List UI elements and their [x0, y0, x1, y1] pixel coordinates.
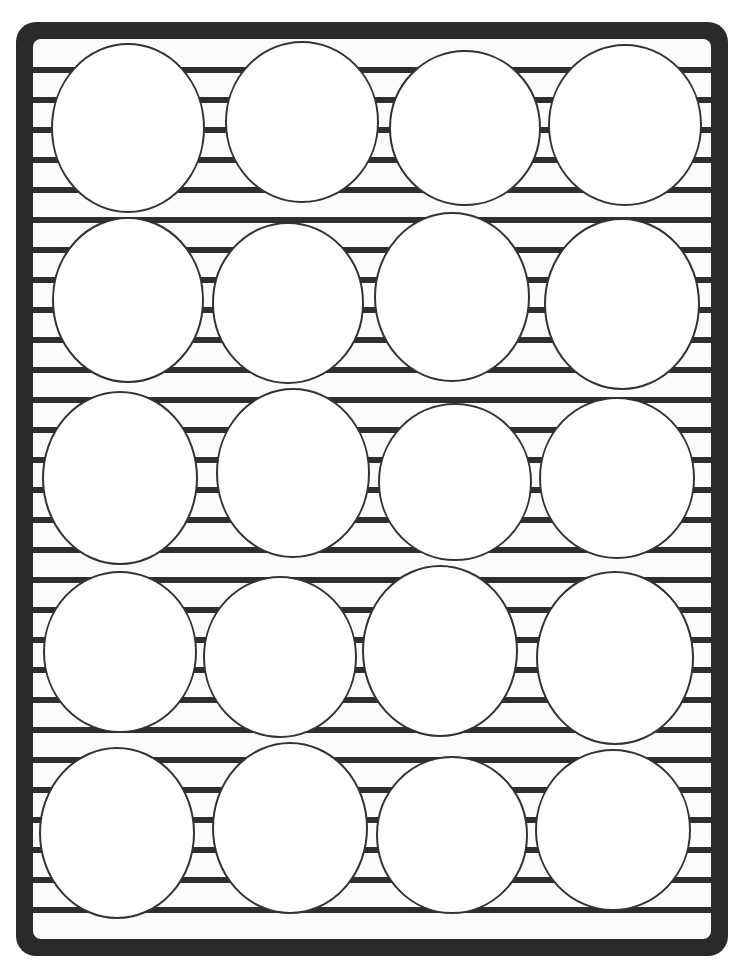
circle-shape	[363, 566, 517, 736]
circle-shape	[213, 743, 367, 913]
circle-shape	[537, 572, 693, 744]
circle-shape	[540, 398, 694, 558]
circle-shape	[217, 389, 369, 557]
circle-shape	[44, 572, 196, 732]
coloring-page-canvas	[0, 0, 740, 973]
circle-shape	[377, 757, 527, 913]
circle-shape	[549, 45, 701, 205]
circle-shape	[204, 577, 356, 737]
circle-shape	[379, 404, 531, 560]
circle-shape	[43, 392, 197, 564]
circle-shape	[40, 748, 194, 918]
circle-shape	[375, 213, 529, 381]
circle-shape	[536, 750, 690, 910]
circle-shape	[226, 42, 378, 202]
circle-shape	[213, 223, 363, 383]
circle-shape	[545, 219, 699, 389]
circle-shape	[53, 218, 203, 382]
circle-shape	[390, 51, 540, 205]
circle-shape	[52, 44, 204, 212]
